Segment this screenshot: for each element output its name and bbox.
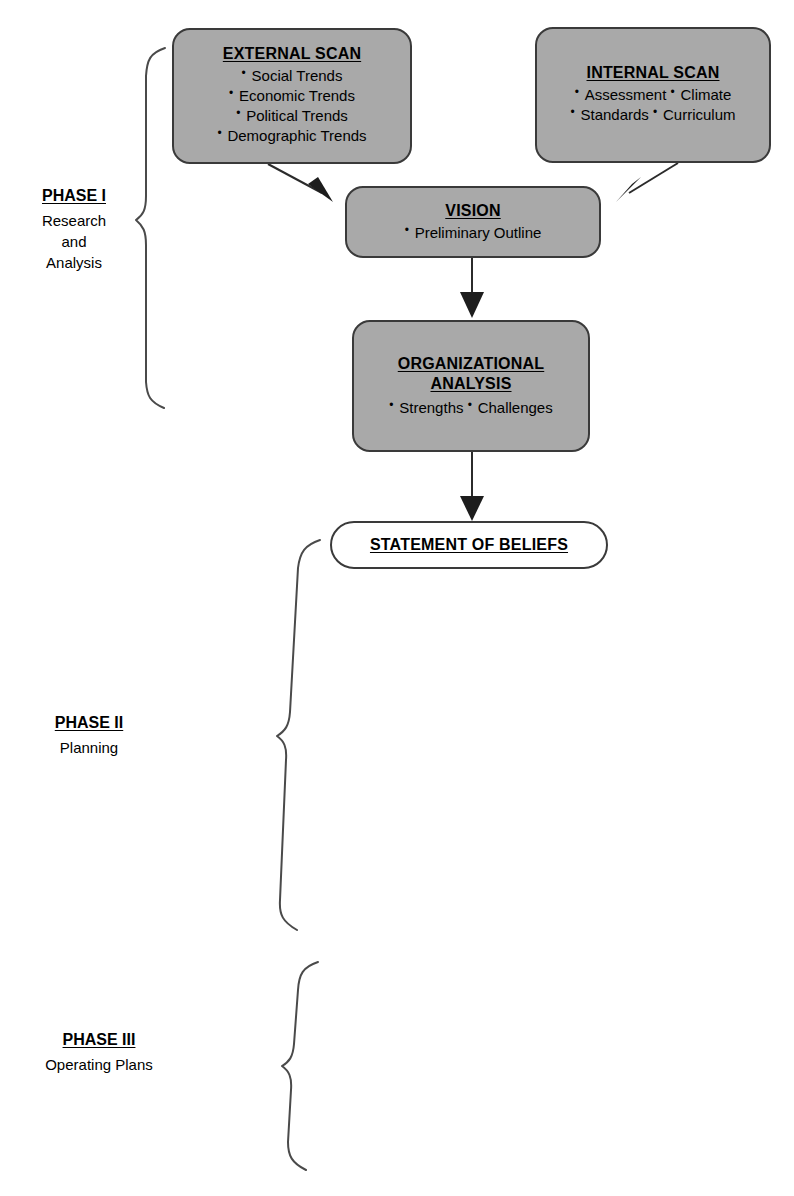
node-internal-scan[interactable]: INTERNAL SCAN Assessment Climate Standar… — [535, 27, 771, 163]
node-external-scan[interactable]: EXTERNAL SCAN Social Trends Economic Tre… — [172, 28, 412, 164]
phase-2-brace — [277, 540, 320, 930]
phase-1-name: PHASE I — [14, 185, 134, 208]
node-organizational-analysis-items: Strengths Challenges — [364, 398, 578, 418]
node-vision-items: Preliminary Outline — [357, 223, 589, 243]
list-item: Assessment — [585, 86, 667, 103]
node-external-scan-items: Social Trends Economic Trends Political … — [184, 66, 400, 146]
phase-3-description: Operating Plans — [14, 1054, 184, 1075]
list-item: Curriculum — [663, 106, 736, 123]
phase-2-name: PHASE II — [14, 712, 164, 735]
node-internal-scan-title: INTERNAL SCAN — [547, 63, 759, 83]
phase-3-brace — [282, 962, 318, 1170]
phase-3-name: PHASE III — [14, 1029, 184, 1052]
list-item: Challenges — [478, 399, 553, 416]
list-item: Political Trends — [246, 107, 348, 124]
connector-vision-to-organizational-analysis — [460, 258, 484, 318]
node-organizational-analysis-title: ORGANIZATIONAL ANALYSIS — [364, 354, 578, 393]
phase-label-2: PHASE II Planning — [14, 712, 164, 758]
phase-2-description: Planning — [14, 737, 164, 758]
node-statement-of-beliefs-title: STATEMENT OF BELIEFS — [342, 535, 596, 555]
node-vision[interactable]: VISION Preliminary Outline — [345, 186, 601, 258]
list-item: Climate — [681, 86, 732, 103]
phase-1-brace — [136, 48, 165, 408]
node-vision-title: VISION — [357, 201, 589, 221]
list-item: Standards — [580, 106, 648, 123]
connector-external-scan-to-vision — [268, 164, 333, 202]
list-item: Social Trends — [252, 67, 343, 84]
list-item: Economic Trends — [239, 87, 355, 104]
list-item: Demographic Trends — [227, 127, 366, 144]
phase-1-description: Research and Analysis — [14, 210, 134, 274]
phase-label-3: PHASE III Operating Plans — [14, 1029, 184, 1075]
node-external-scan-title: EXTERNAL SCAN — [184, 44, 400, 64]
connector-layer — [0, 0, 794, 1196]
node-internal-scan-items: Assessment Climate Standards Curriculum — [547, 85, 759, 125]
diagram-canvas: EXTERNAL SCAN Social Trends Economic Tre… — [0, 0, 794, 1196]
connector-internal-scan-to-vision — [616, 163, 678, 202]
connector-organizational-analysis-to-statement — [460, 452, 484, 521]
list-item: Strengths — [399, 399, 463, 416]
phase-label-1: PHASE I Research and Analysis — [14, 185, 134, 274]
node-statement-of-beliefs[interactable]: STATEMENT OF BELIEFS — [330, 521, 608, 569]
list-item: Preliminary Outline — [415, 224, 542, 241]
node-organizational-analysis[interactable]: ORGANIZATIONAL ANALYSIS Strengths Challe… — [352, 320, 590, 452]
